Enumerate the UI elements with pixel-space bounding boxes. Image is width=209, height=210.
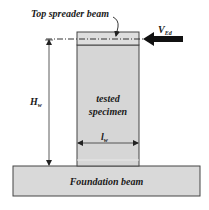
top-spreader-beam-label: Top spreader beam [31, 9, 109, 19]
force-subscript: Ed [165, 30, 172, 36]
force-symbol: V [158, 24, 165, 35]
height-label: Hw [30, 97, 42, 108]
length-subscript: w [104, 137, 108, 143]
height-dimension [45, 40, 53, 165]
specimen-label-line2: specimen [77, 107, 139, 117]
height-subscript: w [38, 102, 42, 108]
length-label: lw [101, 132, 108, 143]
top-spreader-beam [77, 32, 139, 45]
specimen-label-line1: tested [77, 94, 139, 104]
foundation-beam-label: Foundation beam [13, 177, 200, 187]
height-symbol: H [30, 96, 38, 107]
force-label: VEd [158, 25, 172, 36]
